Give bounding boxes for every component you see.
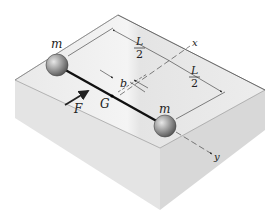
mass-label-bottom: m — [159, 102, 170, 116]
svg-text:L: L — [135, 35, 143, 48]
svg-text:L: L — [190, 64, 198, 77]
mass-sphere-top — [46, 54, 68, 76]
mass-sphere-bottom — [154, 115, 176, 137]
svg-text:2: 2 — [191, 77, 198, 90]
dumbbell-diagram: m m F G b L 2 L 2 x y — [0, 0, 280, 216]
force-label: F — [73, 102, 83, 116]
offset-label: b — [120, 77, 127, 90]
center-of-mass-label: G — [100, 97, 110, 111]
y-axis-label: y — [213, 151, 220, 162]
center-of-mass-point — [110, 94, 113, 97]
svg-text:2: 2 — [136, 48, 143, 61]
x-axis-label: x — [192, 37, 198, 48]
mass-label-top: m — [51, 37, 62, 51]
